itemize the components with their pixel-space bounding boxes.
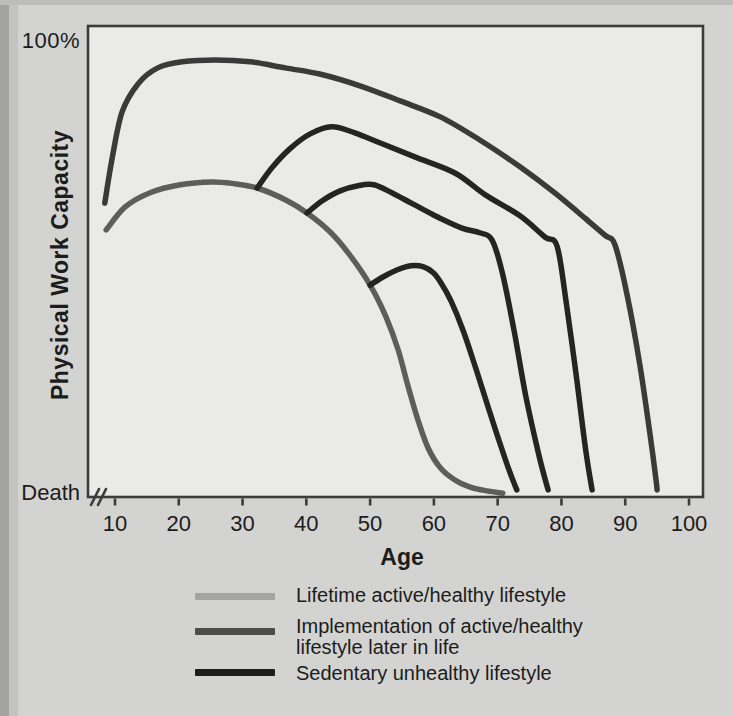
x-tick-label-20: 20: [155, 511, 203, 537]
chart-canvas: [0, 0, 733, 716]
x-tick-label-100: 100: [665, 511, 713, 537]
x-tick-label-10: 10: [91, 511, 139, 537]
x-axis-title: Age: [342, 544, 462, 571]
legend-swatch-sedentary: [195, 669, 275, 676]
x-tick-label-40: 40: [282, 511, 330, 537]
y-axis-title: Physical Work Capacity: [47, 125, 77, 405]
legend-swatch-implementation-later: [195, 628, 275, 635]
legend-label-lifetime-active: Lifetime active/healthy lifestyle: [296, 585, 566, 606]
x-tick-label-60: 60: [410, 511, 458, 537]
legend-swatch-lifetime-active: [195, 593, 275, 600]
x-tick-label-70: 70: [474, 511, 522, 537]
legend-label-sedentary: Sedentary unhealthy lifestyle: [296, 663, 552, 684]
x-tick-label-30: 30: [219, 511, 267, 537]
legend-label-implementation-line1: Implementation of active/healthy: [296, 616, 583, 637]
x-tick-label-80: 80: [537, 511, 585, 537]
figure-page: 100% Death Physical Work Capacity Age 10…: [0, 0, 733, 716]
x-tick-label-90: 90: [601, 511, 649, 537]
y-axis-bottom-label: Death: [16, 480, 80, 506]
x-tick-label-50: 50: [346, 511, 394, 537]
y-axis-top-label: 100%: [16, 28, 80, 54]
legend-label-implementation-line2: lifestyle later in life: [296, 637, 583, 658]
